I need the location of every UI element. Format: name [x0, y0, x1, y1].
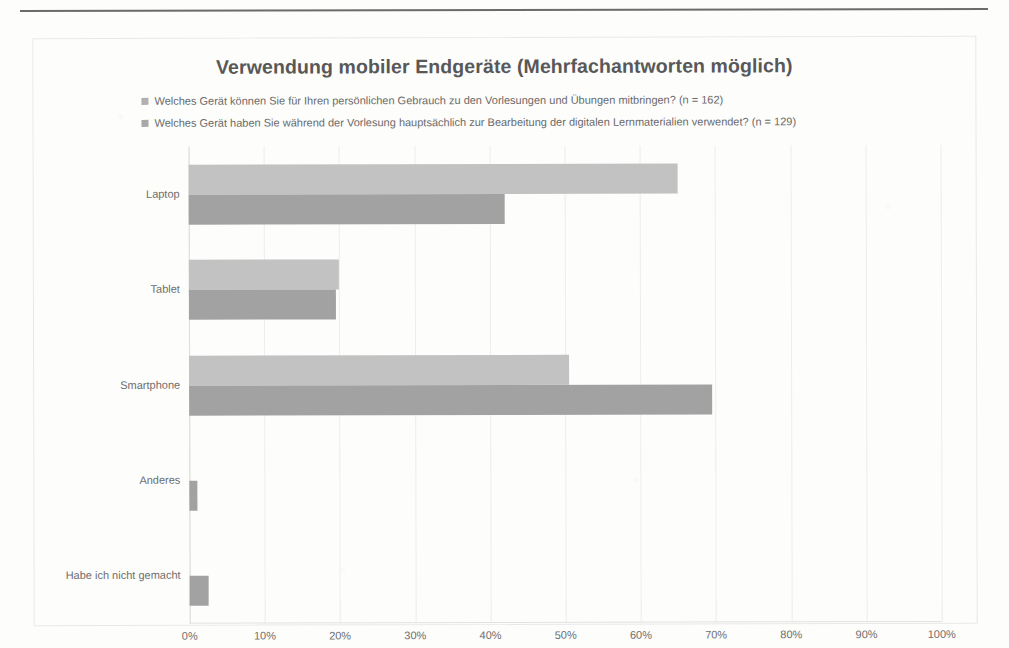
category-label: Tablet — [0, 283, 180, 296]
x-tick-label: 40% — [480, 629, 502, 641]
legend-swatch-series-1 — [141, 97, 148, 104]
x-tick-label: 100% — [928, 628, 956, 640]
bar-series-1[interactable] — [189, 259, 339, 289]
bar-series-2[interactable] — [190, 576, 209, 606]
chart-title: Verwendung mobiler Endgeräte (Mehrfachan… — [33, 54, 975, 79]
category-label: Laptop — [0, 187, 180, 200]
bar-series-1[interactable] — [189, 163, 678, 194]
legend-item[interactable]: Welches Gerät haben Sie während der Vorl… — [141, 115, 965, 129]
chart-legend: Welches Gerät können Sie für Ihren persö… — [141, 93, 965, 139]
category-label: Anderes — [0, 474, 180, 487]
bar-group: Smartphone — [189, 353, 941, 415]
bar-series-2[interactable] — [189, 384, 712, 415]
x-tick-label: 50% — [555, 629, 577, 641]
x-tick-label: 0% — [182, 630, 198, 642]
legend-label-series-2: Welches Gerät haben Sie während der Vorl… — [154, 115, 796, 129]
legend-item[interactable]: Welches Gerät können Sie für Ihren persö… — [141, 93, 965, 107]
bar-group: Habe ich nicht gemacht — [190, 544, 942, 606]
bar-group: Anderes — [189, 449, 941, 511]
legend-swatch-series-2 — [141, 119, 148, 126]
plot-area: LaptopTabletSmartphoneAnderesHabe ich ni… — [189, 145, 942, 624]
bar-series-2[interactable] — [189, 481, 197, 511]
x-tick-label: 60% — [630, 629, 652, 641]
bar-series-2[interactable] — [189, 194, 505, 225]
legend-label-series-1: Welches Gerät können Sie für Ihren persö… — [154, 93, 723, 106]
x-tick-label: 30% — [404, 629, 426, 641]
category-label: Smartphone — [0, 378, 180, 391]
bar-series-1[interactable] — [189, 354, 569, 385]
category-label: Habe ich nicht gemacht — [0, 569, 181, 582]
bar-group: Laptop — [189, 163, 941, 225]
bar-group: Tablet — [189, 258, 941, 320]
bar-series-2[interactable] — [189, 290, 336, 320]
page-top-rule — [20, 8, 988, 12]
chart-container: Verwendung mobiler Endgeräte (Mehrfachan… — [32, 36, 977, 626]
x-tick-label: 90% — [856, 628, 878, 640]
x-tick-label: 20% — [329, 629, 351, 641]
x-axis-tick-labels: 0%10%20%30%40%50%60%70%80%90%100% — [190, 628, 942, 648]
x-tick-label: 70% — [705, 628, 727, 640]
x-tick-label: 10% — [254, 630, 276, 642]
x-tick-label: 80% — [780, 628, 802, 640]
